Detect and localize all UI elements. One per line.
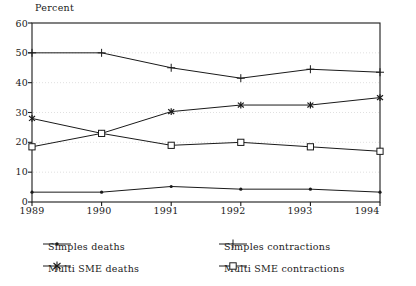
data-point-0-4 <box>309 188 312 191</box>
data-point-3-2 <box>168 142 174 148</box>
data-point-1-1 <box>98 49 106 57</box>
data-point-3-3 <box>238 139 244 145</box>
data-point-1-3 <box>237 74 245 82</box>
data-point-1-0 <box>28 49 36 57</box>
data-point-3-1 <box>99 130 105 136</box>
legend-marker-square <box>218 260 248 272</box>
data-point-3-5 <box>377 148 383 154</box>
chart-root: Percent 60 50 40 30 20 10 0 1989 1990 19… <box>0 0 416 286</box>
legend-marker-plus <box>218 238 248 250</box>
legend-item-multi-sme-deaths: Multi SME deaths <box>42 260 139 276</box>
series-line-0 <box>32 186 380 192</box>
series-line-2 <box>32 98 380 134</box>
data-point-0-5 <box>378 191 381 194</box>
legend-marker-asterisk <box>42 260 72 272</box>
data-point-0-0 <box>30 191 33 194</box>
data-point-1-2 <box>167 64 175 72</box>
legend-item-multi-sme-contractions: Multi SME contractions <box>218 260 345 276</box>
data-point-0-1 <box>100 191 103 194</box>
data-point-3-0 <box>29 144 35 150</box>
series-line-1 <box>32 53 380 78</box>
data-point-0-2 <box>170 185 173 188</box>
data-point-0-3 <box>239 188 242 191</box>
data-point-3-4 <box>307 144 313 150</box>
legend-item-simples-contractions: Simples contractions <box>218 238 330 254</box>
data-point-1-4 <box>306 65 314 73</box>
chart-legend: Simples deaths Simples contractions Mult… <box>0 236 416 286</box>
data-point-1-5 <box>376 68 384 76</box>
legend-marker-dot <box>42 238 72 250</box>
legend-item-simples-deaths: Simples deaths <box>42 238 125 254</box>
